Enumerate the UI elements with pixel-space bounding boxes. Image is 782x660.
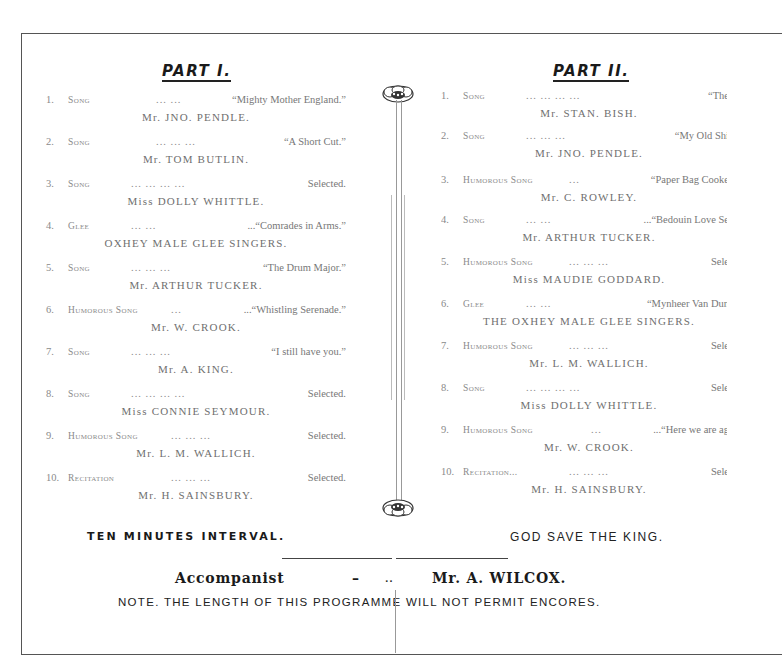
fold-line xyxy=(395,590,396,653)
leader-dots: ... ... ... xyxy=(171,430,211,441)
leader-dots: ... ... ... xyxy=(131,262,171,273)
item-number: 6. xyxy=(46,304,54,315)
item-title: Sele xyxy=(711,382,727,393)
item-performer: Mr. W. CROOK. xyxy=(441,441,727,453)
separator-right xyxy=(396,558,508,559)
leader-dots: ... ... ... xyxy=(171,472,211,483)
item-number: 2. xyxy=(46,136,54,147)
item-title: Selected. xyxy=(308,388,346,399)
programme-item: 2. Song ... ... ... “My Old Shi Mr. JNO.… xyxy=(441,130,727,170)
accompanist-dash: – xyxy=(352,570,360,586)
accompanist-dots: .. xyxy=(385,573,394,584)
item-number: 4. xyxy=(46,220,54,231)
item-number: 5. xyxy=(441,256,449,267)
leader-dots: ... xyxy=(171,304,182,315)
leader-dots: ... ... ... ... xyxy=(131,178,185,189)
leader-dots: ... ... ... ... xyxy=(526,90,580,101)
divider-line-left xyxy=(391,195,392,400)
item-title: ...“Bedouin Love Se xyxy=(644,214,727,225)
item-title: Sele xyxy=(711,466,727,477)
item-title: “My Old Shi xyxy=(675,130,727,141)
center-divider xyxy=(396,100,402,500)
item-title: Selected. xyxy=(308,430,346,441)
item-performer: Mr. ARTHUR TUCKER. xyxy=(441,231,727,243)
item-number: 5. xyxy=(46,262,54,273)
item-performer: THE OXHEY MALE GLEE SINGERS. xyxy=(441,315,727,327)
item-kind: Song xyxy=(68,95,90,105)
item-number: 7. xyxy=(46,346,54,357)
leader-dots: ... ... xyxy=(526,214,551,225)
item-title: “I still have you.” xyxy=(271,346,346,357)
item-number: 2. xyxy=(441,130,449,141)
item-kind: Humorous Song xyxy=(68,431,138,441)
programme-item: 4. Glee ... ... ...“Comrades in Arms.” O… xyxy=(46,220,346,260)
programme-item: 10. Recitation ... ... ... Selected. Mr.… xyxy=(46,472,346,512)
item-performer: Miss MAUDIE GODDARD. xyxy=(441,273,727,285)
leader-dots: ... xyxy=(569,174,580,185)
item-kind: Humorous Song xyxy=(463,425,533,435)
programme-item: 3. Humorous Song ... “Paper Bag Cooke Mr… xyxy=(441,174,727,214)
leader-dots: ... ... ... xyxy=(156,136,196,147)
leader-dots: ... ... ... xyxy=(569,256,609,267)
leader-dots: ... ... ... xyxy=(131,346,171,357)
anthem-notice: GOD SAVE THE KING. xyxy=(510,530,664,544)
programme-item: 8. Song ... ... ... ... Selected. Miss C… xyxy=(46,388,346,428)
programme-item: 3. Song ... ... ... ... Selected. Miss D… xyxy=(46,178,346,218)
item-kind: Song xyxy=(68,179,90,189)
leader-dots: ... xyxy=(591,424,602,435)
programme-item: 8. Song ... ... ... ... Sele Miss DOLLY … xyxy=(441,382,727,422)
item-title: Selected. xyxy=(308,178,346,189)
item-title: Selected. xyxy=(308,472,346,483)
leader-dots: ... ... xyxy=(526,298,551,309)
item-performer: Mr. JNO. PENDLE. xyxy=(46,111,346,123)
programme-item: 7. Humorous Song ... ... ... Sele Mr. L.… xyxy=(441,340,727,380)
flower-ornament-icon xyxy=(381,497,415,519)
part-one-title: PART I. xyxy=(162,62,231,82)
accompanist-name: Mr. A. WILCOX. xyxy=(432,570,566,586)
item-kind: Humorous Song xyxy=(463,341,533,351)
leader-dots: ... ... ... xyxy=(569,340,609,351)
item-performer: Miss CONNIE SEYMOUR. xyxy=(46,405,346,417)
item-title: “The Drum Major.” xyxy=(263,262,346,273)
item-kind: Song xyxy=(463,383,485,393)
programme-item: 4. Song ... ... ...“Bedouin Love Se Mr. … xyxy=(441,214,727,254)
item-kind: Song xyxy=(68,347,90,357)
item-kind: Song xyxy=(68,263,90,273)
item-title: “The xyxy=(708,90,727,101)
item-kind: Humorous Song xyxy=(463,257,533,267)
item-performer: OXHEY MALE GLEE SINGERS. xyxy=(46,237,346,249)
item-number: 9. xyxy=(46,430,54,441)
accompanist-label: Accompanist xyxy=(175,570,285,586)
programme-item: 9. Humorous Song ... ...“Here we are ag … xyxy=(441,424,727,464)
item-performer: Miss DOLLY WHITTLE. xyxy=(46,195,346,207)
leader-dots: ... ... ... xyxy=(526,130,566,141)
item-number: 6. xyxy=(441,298,449,309)
part-two-title: PART II. xyxy=(553,62,629,82)
item-number: 10. xyxy=(46,472,59,483)
item-title: “Paper Bag Cooke xyxy=(651,174,727,185)
programme-item: 1. Song ... ... “Mighty Mother England.”… xyxy=(46,94,346,134)
item-kind: Humorous Song xyxy=(68,305,138,315)
item-number: 1. xyxy=(441,90,449,101)
item-title: “A Short Cut.” xyxy=(284,136,346,147)
item-performer: Mr. A. KING. xyxy=(46,363,346,375)
leader-dots: ... ... ... ... xyxy=(526,382,580,393)
item-performer: Mr. JNO. PENDLE. xyxy=(441,147,727,159)
item-number: 8. xyxy=(46,388,54,399)
item-performer: Mr. L. M. WALLICH. xyxy=(46,447,346,459)
item-performer: Mr. H. SAINSBURY. xyxy=(46,489,346,501)
item-kind: Recitation xyxy=(68,473,114,483)
item-kind: Glee xyxy=(463,299,484,309)
item-number: 10. xyxy=(441,466,454,477)
programme-item: 7. Song ... ... ... “I still have you.” … xyxy=(46,346,346,386)
item-title: “Mynheer Van Dun xyxy=(647,298,727,309)
item-kind: Humorous Song xyxy=(463,175,533,185)
interval-notice: TEN MINUTES INTERVAL. xyxy=(87,530,285,543)
item-number: 9. xyxy=(441,424,449,435)
item-number: 7. xyxy=(441,340,449,351)
leader-dots: ... ... xyxy=(156,94,181,105)
item-title: “Mighty Mother England.” xyxy=(232,94,346,105)
leader-dots: ... ... ... xyxy=(569,466,609,477)
programme-item: 10. Recitation... ... ... ... Sele Mr. H… xyxy=(441,466,727,506)
programme-item: 6. Glee ... ... “Mynheer Van Dun THE OXH… xyxy=(441,298,727,338)
